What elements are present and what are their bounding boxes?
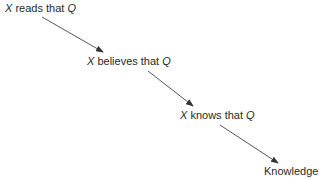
arrows-layer (0, 0, 325, 179)
arrow-right-down-icon (42, 17, 103, 52)
arrow-reads-to-believes (42, 17, 103, 52)
arrow-knows-to-knowledge (220, 125, 278, 163)
arrow-right-down-icon (148, 71, 193, 106)
arrow-believes-to-knows (148, 71, 193, 106)
arrow-right-down-icon (220, 125, 278, 163)
